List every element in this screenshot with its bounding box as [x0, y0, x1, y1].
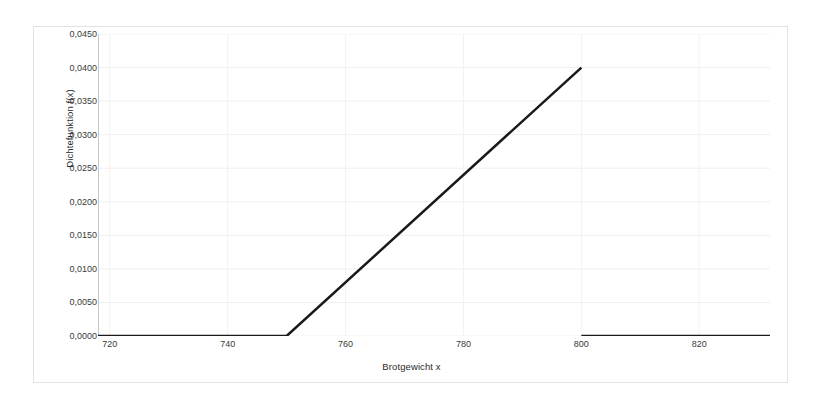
y-tick-label: 0,0300 [37, 130, 97, 140]
y-tick-label: 0,0400 [37, 63, 97, 73]
y-tick-label: 0,0050 [37, 297, 97, 307]
y-tick-label: 0,0200 [37, 197, 97, 207]
vertical-gridlines [110, 34, 699, 336]
plot-svg [98, 34, 770, 336]
x-tick-label: 740 [208, 339, 248, 349]
horizontal-gridlines [98, 34, 770, 336]
y-tick-label: 0,0250 [37, 163, 97, 173]
x-tick-label: 760 [326, 339, 366, 349]
y-tick-label: 0,0350 [37, 96, 97, 106]
x-tick-label: 820 [679, 339, 719, 349]
chart-frame: Dichtefunktion f(x) Brotgewicht x 0,0000… [33, 26, 788, 383]
y-tick-label: 0,0000 [37, 331, 97, 341]
x-axis-title: Brotgewicht x [34, 361, 789, 372]
y-tick-label: 0,0450 [37, 29, 97, 39]
y-tick-label: 0,0150 [37, 230, 97, 240]
x-tick-label: 800 [561, 339, 601, 349]
y-tick-label: 0,0100 [37, 264, 97, 274]
plot-area [98, 34, 770, 336]
x-tick-label: 720 [90, 339, 130, 349]
x-tick-label: 780 [443, 339, 483, 349]
